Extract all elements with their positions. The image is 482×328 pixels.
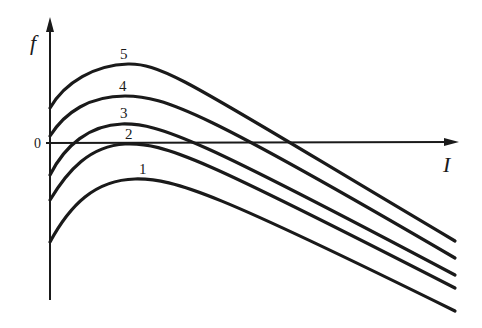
- curve-group: [50, 64, 455, 311]
- curve-label-3: 3: [120, 105, 128, 121]
- diagram: 12345 f 0 I: [0, 0, 482, 328]
- x-axis-arrow-icon: [444, 138, 459, 146]
- y-axis-label: f: [30, 30, 39, 55]
- curve-label-2: 2: [125, 126, 133, 142]
- x-axis-label: I: [442, 152, 452, 177]
- curve-1: [50, 179, 455, 311]
- curve-label-5: 5: [120, 46, 128, 62]
- curve-label-4: 4: [119, 78, 127, 94]
- diagram-canvas: 12345 f 0 I: [0, 0, 482, 328]
- y-axis-arrow-icon: [46, 17, 54, 32]
- curve-label-1: 1: [139, 161, 147, 177]
- origin-label: 0: [34, 136, 41, 151]
